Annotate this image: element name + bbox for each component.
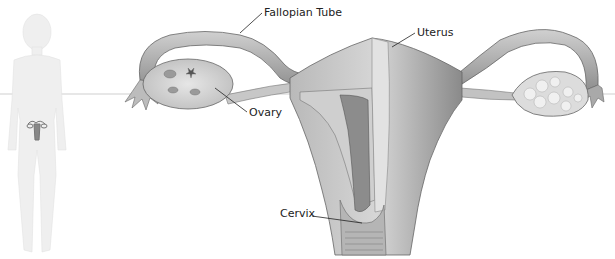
uterus-wall-band	[372, 38, 389, 212]
left-ovary	[143, 59, 233, 109]
fallopian-tube-label: Fallopian Tube	[264, 7, 342, 19]
uterus-label: Uterus	[417, 27, 453, 39]
ovary-label: Ovary	[249, 107, 282, 119]
leader-fallopian-tube	[240, 13, 262, 33]
right-ovarian-ligament	[460, 88, 516, 100]
anatomy-diagram	[0, 0, 615, 259]
cervix-label: Cervix	[280, 208, 315, 220]
